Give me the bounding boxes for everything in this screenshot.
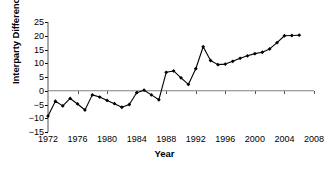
data-point-marker	[260, 50, 264, 54]
data-point-marker	[223, 62, 227, 66]
data-point-marker	[113, 102, 117, 106]
x-tick-label: 1984	[127, 134, 147, 144]
data-point-marker	[98, 95, 102, 99]
data-point-marker	[253, 52, 257, 56]
data-series-line	[48, 22, 314, 132]
y-tick-mark	[45, 132, 48, 133]
y-tick-label: −5	[34, 100, 44, 110]
data-point-marker	[290, 34, 294, 38]
y-tick-label: 10	[34, 58, 44, 68]
data-point-marker	[238, 56, 242, 60]
x-tick-label: 1992	[186, 134, 206, 144]
data-point-marker	[194, 67, 198, 71]
y-tick-label: 5	[39, 72, 44, 82]
data-point-marker	[120, 105, 124, 109]
data-point-marker	[90, 93, 94, 97]
y-axis-title: Interparty Difference	[10, 0, 21, 99]
data-point-marker	[164, 70, 168, 74]
x-tick-label: 1980	[97, 134, 117, 144]
data-point-marker	[297, 33, 301, 37]
x-tick-mark	[314, 91, 315, 94]
y-tick-label: 20	[34, 31, 44, 41]
data-point-marker	[246, 54, 250, 58]
x-tick-label: 2000	[245, 134, 265, 144]
series-path	[48, 35, 299, 116]
x-axis-title: Year	[0, 148, 329, 159]
x-tick-label: 1988	[156, 134, 176, 144]
data-point-marker	[231, 59, 235, 63]
y-tick-label: 25	[34, 17, 44, 27]
x-tick-label: 2008	[304, 134, 324, 144]
x-tick-label: 1996	[215, 134, 235, 144]
y-tick-label: 15	[34, 45, 44, 55]
plot-area: −15−10−50510152025 197219761980198419881…	[48, 22, 314, 132]
data-point-marker	[105, 98, 109, 102]
x-tick-label: 1976	[68, 134, 88, 144]
interparty-difference-chart: Interparty Difference −15−10−50510152025…	[0, 0, 329, 169]
x-tick-label: 2004	[274, 134, 294, 144]
x-tick-label: 1972	[38, 134, 58, 144]
y-tick-label: −10	[29, 113, 44, 123]
y-tick-label: 0	[39, 86, 44, 96]
